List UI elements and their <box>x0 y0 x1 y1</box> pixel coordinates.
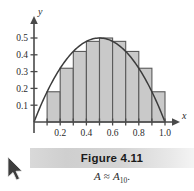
x-tick-label: 0.6 <box>107 128 119 138</box>
y-tick-label: 0.5 <box>16 33 28 43</box>
x-tick-label: 0.2 <box>54 128 66 138</box>
y-axis-label: y <box>37 6 43 17</box>
bar-rectangle <box>100 38 113 122</box>
x-tick-label: 0.8 <box>133 128 145 138</box>
y-axis-tick-labels: 0.10.20.30.40.5 <box>16 33 28 110</box>
figure-caption-formula: A≈A10. <box>30 170 194 185</box>
x-axis-label: x <box>181 110 187 121</box>
bar-rectangle <box>86 41 99 122</box>
bar-rectangle <box>113 41 126 122</box>
bar-rectangle <box>126 51 139 122</box>
y-tick-label: 0.1 <box>16 101 28 111</box>
riemann-sum-chart: 0.10.20.30.40.5 0.20.40.60.81.0 y x <box>0 0 194 145</box>
bars-group <box>47 38 165 122</box>
figure-caption-title: Figure 4.11 <box>81 152 143 164</box>
x-axis-arrowhead <box>172 118 180 126</box>
formula-area-symbol: A <box>94 170 101 182</box>
y-tick-label: 0.2 <box>16 84 28 94</box>
formula-approx-sign: ≈ <box>104 170 110 182</box>
plot-area: 0.10.20.30.40.5 0.20.40.60.81.0 y x <box>0 0 194 145</box>
bar-rectangle <box>139 68 152 122</box>
y-axis-arrowhead <box>30 16 38 24</box>
x-axis-tick-labels: 0.20.40.60.81.0 <box>54 128 171 138</box>
mouse-pointer-icon <box>6 156 24 182</box>
caption-banner: Figure 4.11 <box>30 148 194 168</box>
y-tick-label: 0.3 <box>16 67 28 77</box>
bar-rectangle <box>73 51 86 122</box>
formula-approximation-symbol: A <box>113 170 120 182</box>
formula-subscript: 10 <box>120 176 128 185</box>
figure-container: 0.10.20.30.40.5 0.20.40.60.81.0 y x Figu… <box>0 0 194 191</box>
y-tick-label: 0.4 <box>16 50 28 60</box>
x-tick-label: 0.4 <box>80 128 92 138</box>
bar-rectangle <box>60 68 73 122</box>
formula-period: . <box>127 170 130 182</box>
bar-rectangle <box>47 92 60 122</box>
x-tick-label: 1.0 <box>159 128 171 138</box>
